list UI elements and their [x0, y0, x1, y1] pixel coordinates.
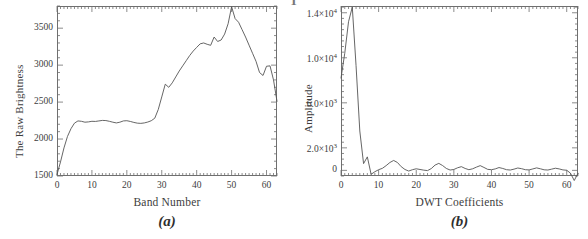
figure-root: T The Raw Brightness Band Number (a) 150…: [0, 0, 588, 239]
x-tick-label: 40: [183, 180, 211, 190]
x-tick-label: 0: [43, 180, 71, 190]
y-tick-label: 1.4×104: [293, 7, 337, 19]
x-tick-label: 0: [327, 180, 355, 190]
y-tick-label: 1500: [9, 170, 53, 180]
x-axis-title-a: Band Number: [57, 196, 277, 208]
y-tick-label: 0: [293, 164, 337, 174]
chart-panel-a: The Raw Brightness Band Number (a) 15002…: [0, 0, 294, 239]
panel-caption-a: (a): [57, 213, 277, 230]
x-tick-label: 10: [78, 180, 106, 190]
x-tick-label: 20: [113, 180, 141, 190]
x-tick-label: 50: [515, 180, 543, 190]
y-tick-label: 1.0×104: [293, 52, 337, 64]
y-tick-label: 2000: [9, 133, 53, 143]
panel-caption-b: (b): [341, 213, 578, 230]
x-tick-label: 50: [218, 180, 246, 190]
x-tick-label: 40: [477, 180, 505, 190]
y-tick-label: 6.0×103: [293, 97, 337, 109]
y-tick-label: 2.0×103: [293, 142, 337, 154]
chart-panel-b: Amplitude DWT Coefficients (b) 02.0×1036…: [294, 0, 588, 239]
y-tick-label: 3500: [9, 22, 53, 32]
y-tick-label: 2500: [9, 96, 53, 106]
x-tick-label: 60: [253, 180, 281, 190]
x-axis-title-b: DWT Coefficients: [341, 196, 578, 208]
x-tick-label: 60: [553, 180, 581, 190]
y-axis-title-a: The Raw Brightness: [13, 65, 25, 158]
x-tick-label: 30: [148, 180, 176, 190]
x-tick-label: 20: [402, 180, 430, 190]
x-tick-label: 30: [440, 180, 468, 190]
x-tick-label: 10: [365, 180, 393, 190]
y-tick-label: 3000: [9, 59, 53, 69]
